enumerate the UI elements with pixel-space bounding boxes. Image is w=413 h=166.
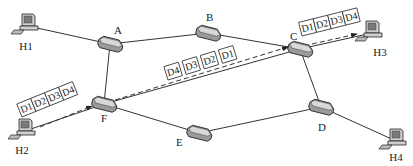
network-diagram-canvas: D1D2D3D4D4D3D2D1D1D2D3D4 ABCDEF H1H2H3H4 <box>0 0 413 166</box>
router-icon <box>186 124 213 142</box>
link-a-b <box>110 33 208 44</box>
packet-group-pkts-f-c: D4D3D2D1 <box>164 46 237 80</box>
router-label-d: D <box>318 121 326 133</box>
router-icon <box>308 98 335 116</box>
router-label-e: E <box>176 136 183 148</box>
router-f[interactable] <box>91 95 118 113</box>
router-d[interactable] <box>308 98 335 116</box>
router-label-f: F <box>101 112 107 124</box>
computer-icon <box>8 119 35 139</box>
packet-groups-layer: D1D2D3D4D4D3D2D1D1D2D3D4 <box>17 8 360 117</box>
host-label-h3: H3 <box>373 46 387 58</box>
host-label-h2: H2 <box>15 144 28 156</box>
host-h3[interactable] <box>355 21 382 41</box>
host-h4[interactable] <box>379 129 406 149</box>
host-h1[interactable] <box>11 14 38 34</box>
link-f-e <box>104 104 199 133</box>
computer-icon <box>355 21 382 41</box>
link-a-f <box>104 44 110 104</box>
routers-layer: ABCDEF <box>91 11 335 148</box>
router-c[interactable] <box>287 40 314 58</box>
link-c-d <box>300 49 321 107</box>
link-e-d <box>199 107 321 133</box>
flow-arrow-c-to-h3 <box>312 34 357 44</box>
links-layer <box>25 26 396 141</box>
computer-icon <box>11 14 38 34</box>
link-h1-a <box>28 26 110 44</box>
host-h2[interactable] <box>8 119 35 139</box>
flow-arrow-h2-to-f <box>40 106 92 127</box>
router-icon <box>287 40 314 58</box>
packet-group-pkts-c-h3: D1D2D3D4 <box>299 8 361 36</box>
router-icon <box>97 35 124 53</box>
computer-icon <box>379 129 406 149</box>
network-diagram: D1D2D3D4D4D3D2D1D1D2D3D4 ABCDEF H1H2H3H4 <box>0 0 413 166</box>
router-a[interactable] <box>97 35 124 53</box>
router-label-a: A <box>114 24 122 36</box>
router-label-b: B <box>206 11 213 23</box>
host-label-h1: H1 <box>19 40 32 52</box>
router-e[interactable] <box>186 124 213 142</box>
router-b[interactable] <box>195 24 222 42</box>
link-b-c <box>208 33 300 49</box>
host-label-h4: H4 <box>389 151 403 163</box>
packet-group-pkts-h2-f: D1D2D3D4 <box>17 82 78 117</box>
router-icon <box>195 24 222 42</box>
router-label-c: C <box>290 30 297 42</box>
router-icon <box>91 95 118 113</box>
